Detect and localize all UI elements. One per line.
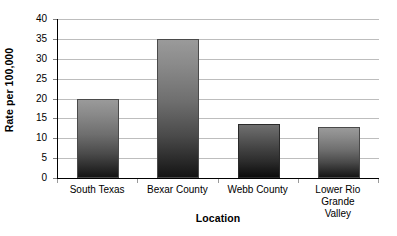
x-axis-tick-mark (378, 179, 379, 183)
bar[interactable] (238, 124, 280, 178)
bar-slot (219, 19, 299, 178)
y-axis-tick-label: 5 (41, 153, 47, 163)
bar-chart: Rate per 100,000 0510152025303540 South … (0, 0, 397, 236)
bar-slot (138, 19, 218, 178)
y-axis-tick-label: 40 (36, 14, 47, 24)
x-axis-tick-label-line: South Texas (57, 184, 137, 196)
y-axis-tick-label: 0 (41, 173, 47, 183)
plot-area (57, 19, 379, 179)
bar[interactable] (157, 39, 199, 178)
y-axis-tick-label: 10 (36, 133, 47, 143)
y-axis-title-label: Rate per 100,000 (3, 48, 15, 133)
x-axis-tick-label-line: Lower Rio Grande (298, 184, 378, 208)
y-axis-tick-label: 30 (36, 54, 47, 64)
y-axis-tick-label: 25 (36, 74, 47, 84)
x-axis-tick-label-line: Webb County (218, 184, 298, 196)
x-axis-tick-mark (137, 179, 138, 183)
bar-slot (299, 19, 379, 178)
y-axis-tick-label: 15 (36, 113, 47, 123)
y-axis-tick-label: 20 (36, 94, 47, 104)
x-axis-title: Location (57, 212, 379, 224)
x-axis-tick-mark (218, 179, 219, 183)
bars-layer (58, 19, 379, 178)
x-axis-tick-mark (57, 179, 58, 183)
x-axis-tick-mark (298, 179, 299, 183)
bar[interactable] (318, 127, 360, 178)
x-axis-tick-label: South Texas (57, 184, 137, 196)
x-axis-tick-label: Webb County (218, 184, 298, 196)
bar[interactable] (77, 99, 119, 179)
x-axis-tick-label-line: Bexar County (137, 184, 217, 196)
x-axis-tick-labels: South TexasBexar CountyWebb CountyLower … (57, 184, 379, 214)
x-axis-tick-label: Bexar County (137, 184, 217, 196)
y-axis-tick-label: 35 (36, 34, 47, 44)
y-axis-tick-labels: 0510152025303540 (18, 19, 52, 178)
y-axis-title: Rate per 100,000 (0, 0, 18, 180)
bar-slot (58, 19, 138, 178)
